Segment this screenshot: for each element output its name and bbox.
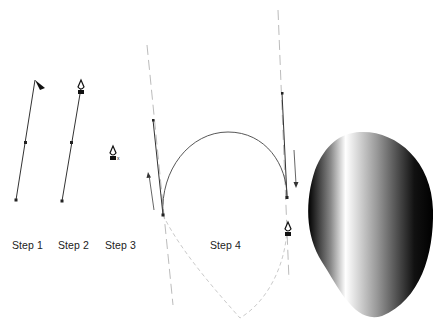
step1-path	[15, 80, 46, 202]
gradient-teardrop-shape	[308, 132, 433, 317]
pen-icon	[78, 80, 84, 94]
step1-label: Step 1	[12, 239, 43, 251]
diagram-svg: x	[0, 0, 444, 328]
step4-curve	[147, 10, 299, 318]
direct-selection-arrow-icon	[35, 80, 45, 90]
figure-canvas: x	[0, 0, 444, 328]
pen-icon	[285, 222, 291, 236]
step3-pen-x: x	[110, 146, 120, 161]
svg-text:x: x	[117, 155, 120, 161]
down-arrow-icon	[294, 150, 299, 188]
step3-label: Step 3	[105, 239, 136, 251]
step2-path	[61, 80, 85, 203]
up-arrow-icon	[147, 172, 155, 210]
step4-label: Step 4	[210, 239, 241, 251]
step2-label: Step 2	[58, 239, 89, 251]
